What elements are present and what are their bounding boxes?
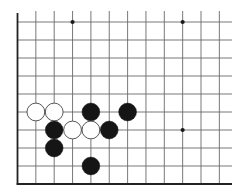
- black-stone[interactable]: [45, 139, 63, 157]
- white-stone[interactable]: [82, 121, 100, 139]
- black-stone[interactable]: [82, 157, 100, 175]
- white-stone[interactable]: [64, 121, 82, 139]
- white-stone[interactable]: [45, 103, 63, 121]
- star-point-icon: [181, 128, 185, 132]
- star-point-icon: [70, 20, 74, 24]
- go-board[interactable]: [0, 0, 250, 196]
- black-stone[interactable]: [100, 121, 118, 139]
- grid-lines: [18, 11, 233, 184]
- star-point-icon: [181, 20, 185, 24]
- black-stone[interactable]: [45, 121, 63, 139]
- stones-layer: [27, 103, 137, 175]
- white-stone[interactable]: [27, 103, 45, 121]
- board-edges: [17, 13, 232, 185]
- go-board-canvas[interactable]: [0, 0, 250, 196]
- black-stone[interactable]: [82, 103, 100, 121]
- black-stone[interactable]: [119, 103, 137, 121]
